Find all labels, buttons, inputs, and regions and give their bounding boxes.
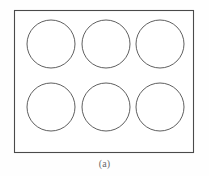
figure-caption: (a) — [0, 158, 209, 170]
circle-row2-col2 — [82, 83, 130, 131]
circle-row1-col1 — [27, 20, 75, 68]
circle-array-diagram — [0, 0, 209, 176]
circle-row2-col3 — [136, 83, 184, 131]
circle-row1-col3 — [136, 20, 184, 68]
circle-row1-col2 — [82, 20, 130, 68]
circle-row2-col1 — [27, 83, 75, 131]
figure-container: (a) — [0, 0, 209, 176]
